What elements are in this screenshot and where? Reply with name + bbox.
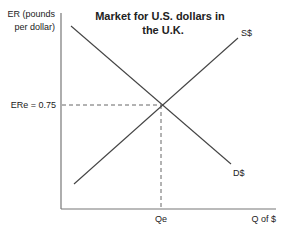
y-axis-label-line1: ER (pounds [7, 9, 55, 19]
x-axis-label: Q of $ [251, 214, 276, 224]
supply-demand-chart: ER (pounds per dollar) Market for U.S. d… [0, 0, 292, 235]
demand-curve [71, 26, 231, 164]
y-axis-label-line2: per dollar) [14, 22, 55, 32]
chart-title-line2: the U.K. [142, 24, 184, 36]
supply-curve-label: S$ [241, 28, 252, 38]
equilibrium-price-label: ERe = 0.75 [11, 100, 56, 110]
chart-title-line1: Market for U.S. dollars in [95, 10, 225, 22]
equilibrium-quantity-label: Qe [155, 214, 167, 224]
supply-curve [74, 38, 238, 184]
demand-curve-label: D$ [233, 168, 245, 178]
